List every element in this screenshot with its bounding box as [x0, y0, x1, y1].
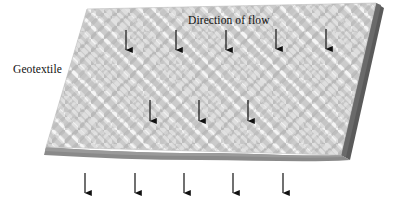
direction-of-flow-label: Direction of flow [188, 14, 270, 26]
geotextile-label: Geotextile [13, 63, 62, 75]
geotextile-flow-diagram [0, 0, 407, 206]
flow-arrows-below-row [85, 173, 283, 193]
